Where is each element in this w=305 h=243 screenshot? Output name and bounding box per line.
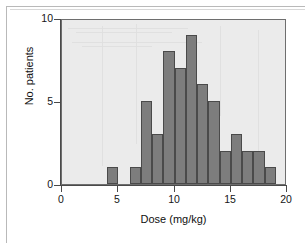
x-axis-tick [61, 186, 62, 192]
x-axis-tick-label: 20 [274, 194, 298, 205]
histogram-bar [197, 84, 208, 184]
y-axis-line [60, 19, 61, 186]
plot-inner [62, 20, 285, 184]
page-edge-top-secondary [10, 9, 305, 10]
y-axis-tick-label: 10 [41, 13, 53, 24]
page-edge-left [6, 6, 7, 243]
x-axis-tick-label: 15 [218, 194, 242, 205]
page-edge-top [6, 6, 305, 7]
histogram-bar [163, 51, 174, 184]
histogram-bar [107, 167, 118, 184]
x-axis-tick-label: 5 [105, 194, 129, 205]
y-axis-label: No. patients [23, 31, 35, 121]
y-axis-tick-label: 5 [47, 96, 53, 107]
x-axis-tick [117, 186, 118, 192]
histogram-bar [265, 167, 276, 184]
histogram-bar [208, 101, 219, 184]
histogram-bar [253, 151, 264, 184]
x-axis-tick [174, 186, 175, 192]
y-axis-tick [54, 185, 60, 186]
histogram-bar [175, 68, 186, 184]
histogram-bar [152, 134, 163, 184]
plot-area [61, 19, 286, 185]
histogram-figure: 051005101520 Dose (mg/kg) No. patients [0, 0, 305, 243]
histogram-bar [242, 151, 253, 184]
x-axis-tick [230, 186, 231, 192]
x-axis-tick [286, 186, 287, 192]
histogram-bar [130, 167, 141, 184]
y-axis-tick-label: 0 [47, 179, 53, 190]
x-axis-tick-label: 10 [162, 194, 186, 205]
x-axis-tick-label: 0 [49, 194, 73, 205]
x-axis-label: Dose (mg/kg) [61, 213, 286, 225]
y-axis-tick [54, 19, 60, 20]
histogram-bar [220, 151, 231, 184]
y-axis-tick [54, 102, 60, 103]
histogram-bar [186, 35, 197, 184]
histogram-bar [141, 101, 152, 184]
bar-series [62, 20, 285, 184]
histogram-bar [231, 134, 242, 184]
